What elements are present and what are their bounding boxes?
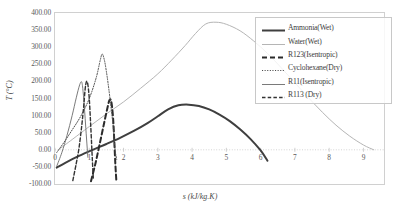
- y-tick-label: -100.00: [0, 179, 51, 188]
- legend-label: Water(Wet): [288, 37, 322, 46]
- legend-swatch-icon: [259, 76, 287, 87]
- x-tick-label: 6: [251, 153, 271, 162]
- chart-container: 400.00350.00300.00250.00200.00150.00100.…: [0, 0, 399, 207]
- y-tick-label: 400.00: [0, 8, 51, 17]
- x-tick-label: 4: [182, 153, 202, 162]
- legend-swatch-icon: [259, 22, 287, 33]
- y-tick-label: -50.00: [0, 162, 51, 171]
- x-axis-title: s (kJ/kg.K): [60, 192, 340, 201]
- legend-item[interactable]: Cyclohexane(Dry): [256, 61, 391, 74]
- x-tick-label: 9: [353, 153, 373, 162]
- legend-item[interactable]: R11(Isentropic): [256, 75, 391, 88]
- legend-label: Cyclohexane(Dry): [288, 63, 342, 72]
- legend-label: Ammonia(Wet): [288, 23, 334, 32]
- legend-swatch-icon: [259, 49, 287, 60]
- x-tick-label: 8: [319, 153, 339, 162]
- x-tick-label: 3: [148, 153, 168, 162]
- x-tick-label: 1: [79, 153, 99, 162]
- legend-swatch-icon: [259, 62, 287, 73]
- chart-legend: Ammonia(Wet)Water(Wet)R123(Isentropic)Cy…: [255, 17, 392, 104]
- y-tick-label: 50.00: [0, 128, 51, 137]
- legend-item[interactable]: R123(Isentropic): [256, 48, 391, 61]
- y-tick-label: 0.00: [0, 145, 51, 154]
- legend-label: R113 (Dry): [288, 90, 321, 99]
- legend-label: R11(Isentropic): [288, 77, 334, 86]
- y-tick-label: 300.00: [0, 42, 51, 51]
- legend-swatch-icon: [259, 89, 287, 100]
- x-tick-label: 5: [216, 153, 236, 162]
- legend-swatch-icon: [259, 36, 287, 47]
- y-tick-label: 350.00: [0, 25, 51, 34]
- x-tick-label: 2: [114, 153, 134, 162]
- x-tick-label: 7: [285, 153, 305, 162]
- y-axis-title: T (°C): [5, 68, 14, 114]
- legend-label: R123(Isentropic): [288, 50, 337, 59]
- x-tick-label: 0: [45, 153, 65, 162]
- legend-item[interactable]: R113 (Dry): [256, 88, 391, 101]
- legend-item[interactable]: Water(Wet): [256, 34, 391, 47]
- legend-item[interactable]: Ammonia(Wet): [256, 21, 391, 34]
